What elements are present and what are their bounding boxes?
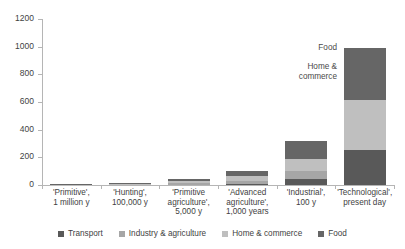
bar-segment <box>226 184 268 185</box>
bar-segment <box>285 159 327 171</box>
legend-item[interactable]: Food <box>318 229 347 238</box>
bar-segment <box>285 141 327 159</box>
x-axis-label-line: 100,000 y <box>112 198 148 207</box>
bar-stack <box>50 184 92 185</box>
x-axis-label: 'Technological',present day <box>329 188 400 207</box>
legend-label: Industry & agriculture <box>129 229 206 238</box>
plot-area <box>42 19 394 185</box>
y-axis-tick-label: 0 <box>0 180 34 189</box>
annotation-food: Food <box>318 43 337 53</box>
annotation-home-commerce: Home & commerce <box>275 62 337 81</box>
x-axis-label-line: 1,000 years <box>226 207 269 216</box>
x-axis-label-line: 'Industrial', <box>287 188 326 197</box>
x-axis-label-line: 'Advanced <box>228 188 266 197</box>
annotation-home-line2: commerce <box>299 72 337 81</box>
y-axis-tick-label: 1000 <box>0 42 34 51</box>
legend-swatch-icon <box>58 231 64 237</box>
y-axis-tick-label: 600 <box>0 97 34 106</box>
y-axis-tick-label: 1200 <box>0 14 34 23</box>
x-axis-label-line: 'Primitive', <box>53 188 90 197</box>
bar-segment <box>344 150 386 185</box>
x-axis-label-line: 1 million y <box>53 198 89 207</box>
x-axis-label-line: 'Primitive <box>172 188 205 197</box>
chart-legend: TransportIndustry & agricultureHome & co… <box>0 229 405 238</box>
bar-segment <box>344 48 386 100</box>
daily-energy-use-bar-chart: 020040060080010001200 'Primitive',1 mill… <box>0 0 405 249</box>
legend-swatch-icon <box>119 231 125 237</box>
bar-segment <box>344 100 386 150</box>
legend-label: Home & commerce <box>232 229 302 238</box>
legend-item[interactable]: Transport <box>58 229 103 238</box>
bar-segment <box>168 183 210 185</box>
bar-stack <box>109 183 151 185</box>
y-axis-tick-label: 200 <box>0 152 34 161</box>
x-axis-label-line: 5,000 y <box>175 207 202 216</box>
x-axis-label-line: 'Hunting', <box>113 188 147 197</box>
x-axis-label-line: 100 y <box>296 198 316 207</box>
legend-item[interactable]: Home & commerce <box>222 229 302 238</box>
legend-swatch-icon <box>222 231 228 237</box>
legend-label: Food <box>328 229 347 238</box>
bar-stack <box>168 179 210 185</box>
x-axis-label-line: agriculture', <box>168 198 210 207</box>
bar-segment <box>109 184 151 185</box>
bar-stack <box>285 141 327 185</box>
bar-segment <box>285 179 327 185</box>
y-axis-tick-label: 400 <box>0 125 34 134</box>
bar-stack <box>344 48 386 185</box>
legend-swatch-icon <box>318 231 324 237</box>
legend-label: Transport <box>68 229 103 238</box>
annotation-home-line1: Home & <box>307 62 337 71</box>
x-axis-label-line: present day <box>343 198 386 207</box>
bar-segment <box>285 171 327 179</box>
bar-stack <box>226 171 268 185</box>
legend-item[interactable]: Industry & agriculture <box>119 229 206 238</box>
x-axis-label-line: 'Technological', <box>337 188 392 197</box>
y-axis-tick-label: 800 <box>0 69 34 78</box>
x-axis-label-line: agriculture', <box>226 198 268 207</box>
